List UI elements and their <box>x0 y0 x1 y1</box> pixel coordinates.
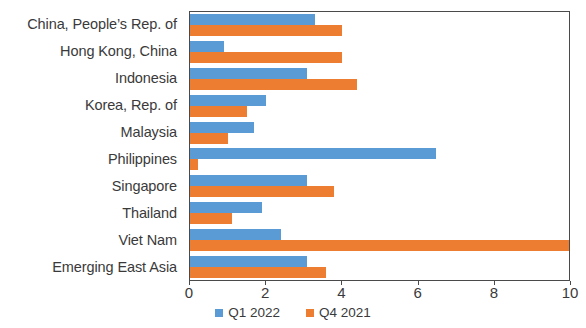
category-label: Indonesia <box>0 65 183 92</box>
category-label: Hong Kong, China <box>0 38 183 65</box>
bar-group <box>190 119 569 146</box>
bar-group <box>190 92 569 119</box>
bar-q1-2022 <box>190 256 307 267</box>
bar-group <box>190 226 569 253</box>
bar-q1-2022 <box>190 175 307 186</box>
bar-group <box>190 66 569 93</box>
bar-q4-2021 <box>190 213 232 224</box>
category-label: Thailand <box>0 200 183 227</box>
legend-swatch-blue <box>215 309 223 317</box>
axis-tick-label: 0 <box>185 285 193 300</box>
legend-label: Q4 2021 <box>319 306 371 320</box>
legend-label: Q1 2022 <box>228 306 280 320</box>
bar-group <box>190 146 569 173</box>
bar-q4-2021 <box>190 133 228 144</box>
bar-group <box>190 39 569 66</box>
bar-q1-2022 <box>190 68 307 79</box>
bar-q4-2021 <box>190 25 342 36</box>
category-label: Viet Nam <box>0 227 183 254</box>
bar-chart: China, People’s Rep. ofHong Kong, ChinaI… <box>0 0 586 328</box>
bar-q1-2022 <box>190 122 254 133</box>
plot-area <box>189 11 570 281</box>
bar-group <box>190 200 569 227</box>
legend-item[interactable]: Q1 2022 <box>215 306 280 320</box>
category-axis: China, People’s Rep. ofHong Kong, ChinaI… <box>0 11 183 281</box>
legend-swatch-orange <box>306 309 314 317</box>
bar-q4-2021 <box>190 240 569 251</box>
bars-layer <box>190 12 569 280</box>
value-axis: 0246810 <box>189 281 570 305</box>
bar-q1-2022 <box>190 229 281 240</box>
bar-q4-2021 <box>190 79 357 90</box>
category-label: Malaysia <box>0 119 183 146</box>
bar-q4-2021 <box>190 106 247 117</box>
bar-group <box>190 173 569 200</box>
axis-tick-label: 2 <box>261 285 269 300</box>
category-label: Korea, Rep. of <box>0 92 183 119</box>
category-label: Singapore <box>0 173 183 200</box>
axis-tick-label: 10 <box>562 285 579 300</box>
bar-q1-2022 <box>190 14 315 25</box>
bar-q1-2022 <box>190 202 262 213</box>
bar-q4-2021 <box>190 186 334 197</box>
bar-q4-2021 <box>190 267 326 278</box>
bar-q4-2021 <box>190 159 198 170</box>
category-label: Philippines <box>0 146 183 173</box>
bar-q1-2022 <box>190 41 224 52</box>
bar-group <box>190 12 569 39</box>
axis-tick-label: 6 <box>413 285 421 300</box>
bar-group <box>190 253 569 280</box>
axis-tick-label: 8 <box>490 285 498 300</box>
legend-item[interactable]: Q4 2021 <box>306 306 371 320</box>
category-label: China, People’s Rep. of <box>0 11 183 38</box>
bar-q1-2022 <box>190 95 266 106</box>
chart-legend: Q1 2022Q4 2021 <box>0 306 586 320</box>
bar-q1-2022 <box>190 148 436 159</box>
bar-q4-2021 <box>190 52 342 63</box>
category-label: Emerging East Asia <box>0 254 183 281</box>
axis-tick-label: 4 <box>337 285 345 300</box>
